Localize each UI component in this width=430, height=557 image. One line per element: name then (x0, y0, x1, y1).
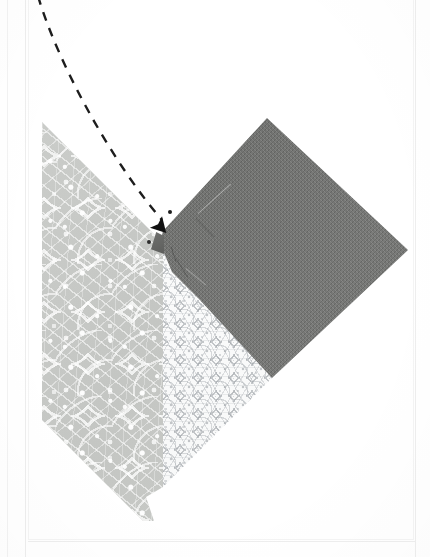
fabric-photo (0, 0, 430, 557)
page-root: Three fabric patches pinned right sides … (0, 0, 430, 557)
seam-intersection-point (147, 240, 151, 244)
